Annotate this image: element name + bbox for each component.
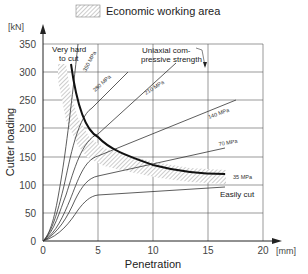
x-unit: [mm] [276, 246, 296, 256]
y-tick: 50 [25, 208, 37, 219]
annotation-very-hard: Very hard [52, 45, 86, 54]
curve-label-210: 210 MPa [143, 78, 166, 96]
y-tick: 0 [30, 236, 36, 247]
y-tick: 350 [19, 39, 36, 50]
chart: Economic working area [kN] 350 300 250 2… [0, 0, 308, 274]
x-tick: 0 [40, 245, 46, 256]
y-tick: 200 [19, 123, 36, 134]
y-axis-arrow-icon [40, 24, 46, 34]
x-tick: 15 [202, 245, 214, 256]
curve-label-35: 35 MPa [233, 174, 253, 180]
curve-label-140: 140 MPa [207, 106, 231, 119]
x-axis-arrow-icon [272, 238, 282, 244]
legend-label: Economic working area [106, 5, 221, 17]
curve-label-280: 280 MPa [92, 73, 113, 93]
y-tick: 150 [19, 152, 36, 163]
annotation-ucs-2: pressive strength [141, 55, 202, 64]
y-axis-label: Cutter loading [4, 108, 16, 177]
ucs-leader-arrow-icon [203, 62, 207, 68]
x-axis-label: Penetration [125, 258, 181, 270]
annotation-to-cut: to cut [59, 54, 79, 63]
x-tick: 5 [95, 245, 101, 256]
curve-label-70: 70 MPa [218, 138, 239, 147]
legend: Economic working area [76, 5, 221, 17]
y-tick: 300 [19, 67, 36, 78]
y-tick: 100 [19, 180, 36, 191]
x-tick: 10 [147, 245, 159, 256]
annotation-ucs: Uniaxial com- [142, 46, 191, 55]
y-tick: 250 [19, 95, 36, 106]
annotation-easily-cut: Easily cut [220, 190, 255, 199]
y-unit: [kN] [8, 22, 24, 32]
x-tick: 20 [257, 245, 269, 256]
curve-35 [43, 187, 225, 241]
legend-swatch [76, 5, 100, 17]
